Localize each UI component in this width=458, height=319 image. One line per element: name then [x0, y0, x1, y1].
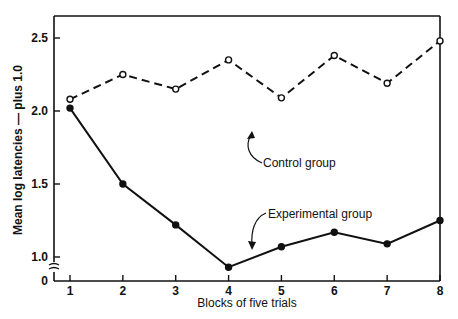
y-axis-title: Mean log latencies — plus 1.0 — [11, 65, 25, 235]
experimental-point — [331, 229, 337, 235]
x-tick-label: 8 — [437, 284, 444, 298]
control-point — [226, 57, 232, 63]
arrow-icon — [252, 213, 266, 245]
x-tick-label: 6 — [331, 284, 338, 298]
experimental-point — [437, 218, 443, 224]
experimental-point — [226, 264, 232, 270]
axis-break-icon — [49, 264, 59, 270]
control-series-line — [70, 41, 440, 99]
y-tick-label: 1.5 — [31, 177, 48, 191]
y-tick-label: 1.0 — [31, 250, 48, 264]
line-chart: 1.01.52.02.50 12345678 Control group Exp… — [0, 0, 458, 319]
control-point — [173, 86, 179, 92]
experimental-point — [173, 222, 179, 228]
arrow-icon — [248, 135, 262, 163]
arrowhead-icon — [247, 131, 255, 139]
series-layer — [67, 38, 443, 270]
y-tick-label-zero: 0 — [41, 274, 48, 288]
control-point — [278, 95, 284, 101]
x-tick-label: 7 — [384, 284, 391, 298]
experimental-point — [67, 105, 73, 111]
y-tick-label: 2.0 — [31, 104, 48, 118]
plot-frame — [54, 16, 440, 281]
experimental-point — [278, 244, 284, 250]
experimental-point — [120, 181, 126, 187]
control-point — [67, 96, 73, 102]
arrowhead-icon — [248, 241, 256, 250]
y-tick-label: 2.5 — [31, 31, 48, 45]
experimental-annotation: Experimental group — [248, 207, 372, 250]
control-annotation: Control group — [247, 131, 336, 170]
control-point — [120, 72, 126, 78]
x-tick-label: 3 — [172, 284, 179, 298]
control-point — [331, 53, 337, 59]
y-axis-ticks: 1.01.52.02.50 — [31, 31, 60, 288]
experimental-point — [384, 241, 390, 247]
x-tick-label: 1 — [67, 284, 74, 298]
control-point — [384, 80, 390, 86]
control-point — [437, 38, 443, 44]
x-tick-label: 2 — [120, 284, 127, 298]
x-axis-title: Blocks of five trials — [197, 296, 296, 310]
control-group-label: Control group — [263, 156, 336, 170]
x-axis-ticks: 12345678 — [67, 275, 444, 298]
experimental-group-label: Experimental group — [268, 207, 372, 221]
